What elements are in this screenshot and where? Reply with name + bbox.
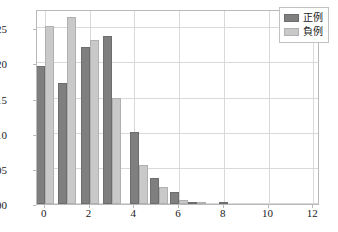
x-tick-label: 0 — [24, 207, 64, 219]
histogram-bar — [139, 165, 148, 204]
x-tick-label: 4 — [113, 207, 153, 219]
histogram-bar — [90, 40, 99, 204]
x-tick-label: 12 — [292, 207, 332, 219]
y-tick — [33, 205, 36, 206]
legend-label-negative: 負例 — [303, 27, 323, 37]
y-tick-label: 0.10 — [0, 129, 7, 141]
y-tick — [33, 64, 36, 65]
legend-label-positive: 正例 — [303, 13, 323, 23]
chart-legend: 正例 負例 — [279, 7, 329, 43]
x-tick-label: 8 — [203, 207, 243, 219]
x-gridline — [269, 11, 270, 204]
y-gridline — [37, 168, 318, 169]
y-tick-label: 0.00 — [0, 199, 7, 211]
histogram-bar — [130, 132, 139, 204]
histogram-bar — [188, 202, 197, 204]
histogram-bar — [179, 200, 188, 204]
y-tick-label: 0.15 — [0, 94, 7, 106]
plot-area — [36, 10, 319, 205]
legend-entry-positive: 正例 — [284, 11, 323, 25]
y-gridline — [37, 98, 318, 99]
histogram-bar — [197, 202, 206, 204]
y-tick — [33, 100, 36, 101]
histogram-bar — [103, 36, 112, 204]
x-tick-label: 10 — [248, 207, 288, 219]
histogram-bar — [58, 83, 67, 204]
x-gridline — [179, 11, 180, 204]
histogram-bar — [112, 98, 121, 204]
light-gray-swatch-icon — [284, 28, 299, 36]
y-gridline — [37, 62, 318, 63]
y-tick-label: 0.25 — [0, 23, 7, 35]
y-tick — [33, 170, 36, 171]
y-gridline — [37, 27, 318, 28]
x-gridline — [224, 11, 225, 204]
y-tick-label: 0.05 — [0, 164, 7, 176]
x-tick-label: 6 — [158, 207, 198, 219]
y-tick — [33, 29, 36, 30]
histogram-bar — [67, 17, 76, 204]
histogram-bar — [150, 178, 159, 204]
dark-gray-swatch-icon — [284, 14, 299, 22]
legend-entry-negative: 負例 — [284, 25, 323, 39]
histogram-bar — [36, 66, 45, 204]
histogram-figure: 正例 負例 0246810120.000.050.100.150.200.25 — [0, 0, 338, 232]
histogram-bar — [219, 202, 228, 204]
y-tick-label: 0.20 — [0, 58, 7, 70]
histogram-bar — [81, 47, 90, 204]
histogram-bar — [170, 192, 179, 204]
y-tick — [33, 135, 36, 136]
x-tick-label: 2 — [69, 207, 109, 219]
histogram-bar — [159, 187, 168, 204]
y-gridline — [37, 133, 318, 134]
histogram-bar — [45, 26, 54, 204]
